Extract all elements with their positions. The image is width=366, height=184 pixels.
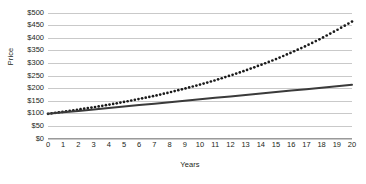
y-axis-tick-label: $350 — [27, 46, 44, 54]
data-point — [166, 91, 169, 94]
x-axis-tick-label: 13 — [241, 140, 249, 149]
data-point — [267, 60, 270, 63]
data-point — [119, 101, 122, 104]
data-point — [249, 67, 252, 70]
data-point — [97, 105, 100, 108]
y-axis-tick-labels: $0$50$100$150$200$250$300$350$400$450$50… — [0, 0, 48, 184]
data-point — [188, 86, 191, 89]
data-point — [322, 36, 325, 39]
data-point — [271, 59, 274, 62]
x-axis-line — [48, 138, 352, 139]
data-point — [123, 100, 126, 103]
data-point — [289, 51, 292, 54]
data-point — [231, 73, 234, 76]
x-axis-tick-label: 6 — [137, 140, 141, 149]
price-growth-chart: Price $0$50$100$150$200$250$300$350$400$… — [0, 0, 366, 184]
data-point — [134, 98, 137, 101]
data-point — [246, 68, 249, 71]
data-point — [213, 79, 216, 82]
y-axis-tick-label: $300 — [27, 59, 44, 67]
x-axis-tick-label: 12 — [226, 140, 234, 149]
data-point — [126, 99, 129, 102]
data-point — [318, 37, 321, 40]
x-axis-tick-label: 17 — [302, 140, 310, 149]
data-point — [195, 84, 198, 87]
y-axis-tick-label: $400 — [27, 34, 44, 42]
data-point — [304, 45, 307, 48]
data-point — [141, 97, 144, 100]
data-point — [278, 56, 281, 59]
y-axis-tick-label: $450 — [27, 21, 44, 29]
x-axis-tick-label: 16 — [287, 140, 295, 149]
y-axis-tick-label: $200 — [27, 84, 44, 92]
data-point — [340, 26, 343, 29]
x-axis-tick-label: 4 — [107, 140, 111, 149]
data-point — [112, 102, 115, 105]
data-point — [94, 105, 97, 108]
series-compound-growth — [47, 20, 354, 115]
y-axis-tick-label: $500 — [27, 9, 44, 17]
data-point — [155, 94, 158, 97]
x-axis-tick-label: 8 — [168, 140, 172, 149]
x-axis-tick-label: 7 — [152, 140, 156, 149]
data-point — [293, 49, 296, 52]
data-point — [314, 39, 317, 42]
data-point — [257, 64, 260, 67]
data-point — [253, 65, 256, 68]
data-point — [224, 75, 227, 78]
data-point — [202, 82, 205, 85]
data-point — [181, 87, 184, 90]
data-point — [105, 103, 108, 106]
x-axis-tick-label: 11 — [211, 140, 219, 149]
x-axis-title: Years — [0, 160, 366, 169]
x-axis-tick-label: 19 — [333, 140, 341, 149]
y-axis-tick-label: $250 — [27, 72, 44, 80]
data-point — [286, 53, 289, 56]
data-point — [343, 24, 346, 27]
x-axis-tick-label: 1 — [61, 140, 65, 149]
data-point — [260, 63, 263, 66]
data-point — [351, 20, 354, 23]
data-point — [238, 71, 241, 74]
data-point — [210, 80, 213, 83]
plot-area — [48, 13, 352, 139]
data-point — [296, 48, 299, 51]
data-point — [300, 46, 303, 49]
data-point — [144, 96, 147, 99]
y-axis-tick-label: $100 — [27, 109, 44, 117]
series-layer — [48, 13, 352, 139]
x-axis-tick-label: 0 — [46, 140, 50, 149]
data-point — [333, 30, 336, 33]
data-point — [90, 106, 93, 109]
data-point — [220, 76, 223, 79]
y-axis-tick-label: $150 — [27, 97, 44, 105]
x-axis-tick-label: 9 — [183, 140, 187, 149]
data-point — [115, 101, 118, 104]
data-point — [206, 81, 209, 84]
x-axis-tick-labels: 01234567891011121314151617181920 — [48, 140, 352, 152]
data-point — [108, 103, 111, 106]
data-point — [159, 93, 162, 96]
y-axis-tick-label: $50 — [31, 122, 44, 130]
data-point — [242, 69, 245, 72]
x-axis-tick-label: 18 — [317, 140, 325, 149]
data-point — [101, 104, 104, 107]
x-axis-tick-label: 15 — [272, 140, 280, 149]
data-point — [170, 90, 173, 93]
data-point — [307, 43, 310, 46]
x-axis-tick-label: 10 — [196, 140, 204, 149]
data-point — [282, 54, 285, 57]
data-point — [329, 32, 332, 35]
x-axis-tick-label: 5 — [122, 140, 126, 149]
data-point — [199, 83, 202, 86]
x-axis-tick-label: 20 — [348, 140, 356, 149]
data-point — [152, 94, 155, 97]
data-point — [325, 34, 328, 37]
data-point — [311, 41, 314, 44]
data-point — [264, 61, 267, 64]
data-point — [228, 74, 231, 77]
data-point — [184, 87, 187, 90]
data-point — [130, 99, 133, 102]
data-point — [191, 85, 194, 88]
x-axis-tick-label: 2 — [76, 140, 80, 149]
